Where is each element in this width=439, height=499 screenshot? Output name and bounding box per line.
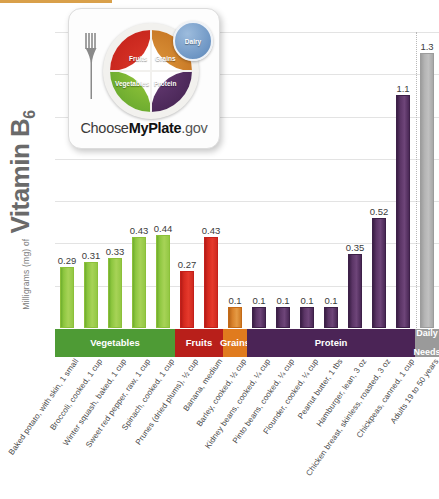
- category-band-label: Daily: [416, 329, 438, 338]
- myplate-wordmark: ChooseMyPlate.gov: [69, 120, 219, 136]
- x-axis-labels: Baked potato, with skin, 1 smallBroccoli…: [0, 357, 439, 499]
- fork-icon: [84, 31, 98, 101]
- category-band-label: Needs: [414, 348, 439, 357]
- category-bands: VegetablesFruitsGrainsProteinDailyNeeds: [55, 329, 439, 357]
- bar[interactable]: 0.1: [276, 307, 291, 328]
- bar-slot: 0.1: [324, 32, 339, 328]
- category-band-label: Protein: [315, 338, 348, 348]
- bar[interactable]: 0.35: [348, 254, 363, 328]
- bar-slot: 0.52: [372, 32, 387, 328]
- category-band-daily: DailyNeeds: [415, 329, 439, 357]
- category-band-vegetables: Vegetables: [55, 329, 175, 357]
- bar[interactable]: 0.1: [252, 307, 267, 328]
- bar-value-label: 1.1: [396, 83, 409, 94]
- bar[interactable]: 0.31: [84, 262, 99, 328]
- bar-slot: 1.1: [396, 32, 411, 328]
- bar-slot: 0.1: [228, 32, 243, 328]
- decorative-top-strip: [0, 0, 112, 3]
- bar-value-label: 0.43: [130, 225, 149, 236]
- bar[interactable]: 0.29: [60, 267, 75, 328]
- bar[interactable]: 0.52: [372, 218, 387, 328]
- bar-value-label: 0.27: [178, 259, 197, 270]
- y-axis-title: Milligrams (mg) of Vitamin B6: [0, 60, 44, 360]
- plate-section-fruits: Fruits: [110, 30, 151, 71]
- bar-value-label: 0.1: [252, 295, 265, 306]
- y-axis-nutrient-label: Vitamin B6: [5, 110, 39, 233]
- bar-value-label: 0.35: [346, 242, 365, 253]
- bar-slot: 1.3: [420, 32, 435, 328]
- category-band-label: Vegetables: [90, 338, 140, 348]
- bar-value-label: 0.1: [228, 295, 241, 306]
- bar[interactable]: 0.1: [300, 307, 315, 328]
- bar[interactable]: 0.1: [228, 307, 243, 328]
- bar-value-label: 0.31: [82, 250, 101, 261]
- bar-value-label: 0.43: [202, 225, 221, 236]
- bar-value-label: 0.33: [106, 246, 125, 257]
- bar[interactable]: 0.43: [132, 237, 147, 328]
- category-band-label: Fruits: [186, 338, 212, 348]
- plate-section-protein: Protein: [151, 71, 192, 112]
- myplate-logo[interactable]: Fruits Grains Vegetables Protein Dairy C…: [68, 8, 220, 149]
- x-axis-label: Adults 19 to 50 years: [389, 357, 439, 425]
- bar-value-label: 0.29: [58, 255, 77, 266]
- bar-slot: 0.1: [300, 32, 315, 328]
- bar[interactable]: 1.3: [420, 53, 435, 328]
- bar-value-label: 0.52: [370, 206, 389, 217]
- category-band-grains: Grains: [223, 329, 247, 357]
- bar-value-label: 0.1: [300, 295, 313, 306]
- bar[interactable]: 0.1: [324, 307, 339, 328]
- bar[interactable]: 1.1: [396, 95, 411, 328]
- bar-slot: 0.1: [276, 32, 291, 328]
- bar[interactable]: 0.33: [108, 258, 123, 328]
- y-axis-units-label: Milligrams (mg) of: [21, 239, 31, 310]
- bar-slot: 0.1: [252, 32, 267, 328]
- bar-value-label: 0.1: [324, 295, 337, 306]
- bar-value-label: 0.44: [154, 223, 173, 234]
- category-band-label: Grains: [220, 338, 250, 348]
- bar[interactable]: 0.27: [180, 271, 195, 328]
- plate-section-dairy: Dairy: [173, 21, 213, 61]
- bar-slot: 0.35: [348, 32, 363, 328]
- category-band-protein: Protein: [247, 329, 415, 357]
- bar-value-label: 0.1: [276, 295, 289, 306]
- category-band-fruits: Fruits: [175, 329, 223, 357]
- bar[interactable]: 0.44: [156, 235, 171, 328]
- bar[interactable]: 0.43: [204, 237, 219, 328]
- bar-value-label: 1.3: [420, 41, 433, 52]
- plate-section-vegetables: Vegetables: [110, 71, 151, 112]
